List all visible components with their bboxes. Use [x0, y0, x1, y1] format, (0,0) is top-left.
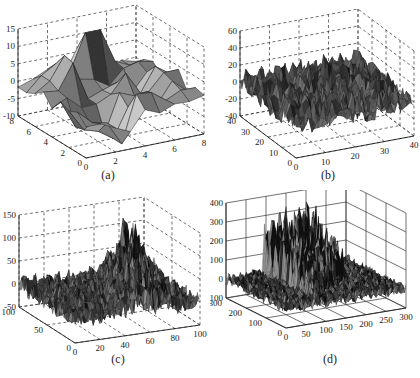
tick-label: 6 [172, 144, 177, 154]
tick-label: -50 [4, 302, 16, 312]
tick-label: 300 [399, 312, 413, 322]
tick-label: 10 [6, 41, 16, 51]
tick-label: 0 [11, 76, 16, 86]
tick-label: 100 [210, 255, 224, 265]
tick-label: 20 [255, 137, 265, 147]
tick-label: 0 [278, 328, 283, 338]
tick-label: 6 [27, 127, 32, 137]
tick-label: 0 [219, 274, 224, 284]
caption-b: (b) [308, 168, 348, 183]
tick-label: -20 [225, 94, 237, 104]
caption-d: (d) [310, 352, 350, 367]
tick-label: 150 [339, 322, 353, 332]
tick-label: 50 [34, 325, 44, 335]
tick-label: 0 [73, 347, 78, 357]
tick-label: 0 [284, 332, 289, 342]
surface-plot-c: 020406080100050100-50050100150 [0, 190, 210, 378]
tick-label: 0 [67, 343, 72, 353]
subplot-c: 020406080100050100-50050100150 (c) [0, 190, 210, 378]
tick-label: 30 [380, 146, 390, 156]
tick-label: 300 [210, 217, 224, 227]
tick-label: 40 [410, 140, 420, 150]
surface [19, 218, 200, 326]
tick-label: 0 [294, 162, 299, 172]
tick-label: 250 [379, 315, 393, 325]
tick-label: 400 [210, 198, 224, 208]
tick-label: 200 [229, 308, 243, 318]
tick-label: 50 [302, 329, 312, 339]
surface-plot-d: 0501001502002503000100200300-10001002003… [210, 190, 420, 378]
tick-label: 100 [3, 233, 17, 243]
caption-c: (c) [98, 352, 138, 367]
tick-label: 60 [146, 336, 156, 346]
surface [18, 30, 204, 144]
tick-label: 100 [193, 329, 207, 339]
tick-label: 50 [7, 256, 17, 266]
tick-label: 20 [351, 151, 361, 161]
subplot-a: 0246802468-10-5051015 (a) [0, 0, 210, 190]
surface-plot-a: 0246802468-10-5051015 [0, 0, 210, 190]
subplot-b: 010203040010203040-40-200204060 (b) [210, 0, 420, 190]
tick-label: 2 [113, 156, 118, 166]
surface [240, 50, 414, 132]
tick-label: 0 [288, 158, 293, 168]
tick-label: 20 [228, 60, 238, 70]
tick-label: 4 [44, 137, 49, 147]
tick-label: 15 [6, 24, 16, 34]
tick-label: 40 [228, 43, 238, 53]
tick-label: -100 [210, 293, 223, 303]
tick-label: 60 [228, 26, 238, 36]
tick-label: 4 [143, 150, 148, 160]
tick-label: 80 [171, 333, 181, 343]
tick-label: -5 [8, 94, 16, 104]
tick-label: 100 [319, 325, 333, 335]
tick-label: 200 [359, 319, 373, 329]
tick-label: 150 [3, 210, 17, 220]
tick-label: 30 [241, 127, 251, 137]
tick-label: 40 [121, 340, 131, 350]
surface-plot-b: 010203040010203040-40-200204060 [210, 0, 420, 190]
tick-label: 0 [233, 77, 238, 87]
tick-label: -40 [225, 111, 237, 121]
tick-label: 0 [78, 158, 83, 168]
tick-label: -10 [3, 111, 15, 121]
tick-label: 10 [269, 148, 279, 158]
caption-a: (a) [88, 168, 128, 183]
tick-label: 5 [11, 59, 16, 69]
tick-label: 0 [12, 279, 17, 289]
subplot-d: 0501001502002503000100200300-10001002003… [210, 190, 420, 378]
tick-label: 10 [321, 157, 331, 167]
tick-label: 200 [210, 236, 224, 246]
tick-label: 2 [61, 148, 66, 158]
tick-label: 100 [249, 318, 263, 328]
tick-label: 8 [202, 138, 207, 148]
